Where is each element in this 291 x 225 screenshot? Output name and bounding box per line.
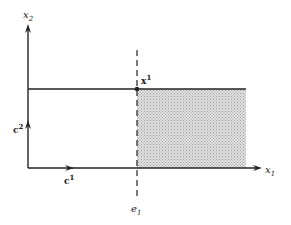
x1-axis-label: x1	[265, 164, 275, 178]
c1-label: c1	[64, 173, 74, 186]
diagram: x2 x1 c1 c2 e1 x1	[0, 0, 291, 225]
x2-axis-label: x2	[23, 9, 34, 23]
x2-axis	[25, 24, 31, 168]
e1-label: e1	[131, 203, 141, 217]
point-x1	[135, 87, 140, 92]
shaded-region	[137, 89, 246, 168]
c2-label: c2	[13, 122, 23, 135]
point-x1-label: x1	[141, 73, 151, 86]
